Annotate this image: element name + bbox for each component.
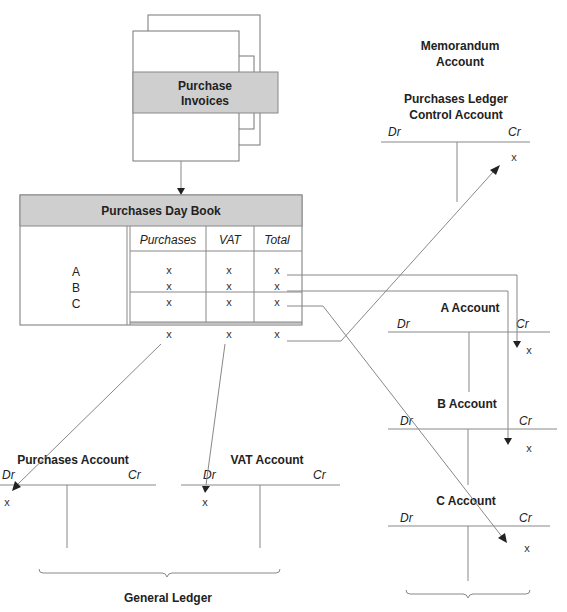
- purchases-flow-diagram: Purchase Invoices Purchases Day Book Pur…: [0, 0, 567, 612]
- purchases-account-cr: Cr: [128, 468, 142, 482]
- memorandum-heading-line1: Memorandum: [421, 39, 500, 53]
- arrow-head-icon: [513, 341, 521, 348]
- control-account: Purchases Ledger Control Account Dr Cr x: [381, 92, 530, 202]
- control-account-title-line2: Control Account: [409, 108, 503, 122]
- purchase-invoices-stack: Purchase Invoices: [133, 15, 278, 161]
- purchases-account: Purchases Account Dr Cr x: [0, 453, 156, 548]
- purchases-account-dr: Dr: [2, 468, 16, 482]
- vat-account-dr-entry: x: [202, 496, 208, 508]
- a-account-cr: Cr: [516, 317, 530, 331]
- control-account-title-line1: Purchases Ledger: [404, 92, 508, 106]
- invoice-title-line1: Purchase: [178, 79, 232, 93]
- row-name-a: A: [72, 265, 80, 279]
- cell-c-purchases: x: [166, 296, 172, 308]
- vat-account: VAT Account Dr Cr x: [181, 453, 340, 548]
- c-account: C Account Dr Cr x: [388, 494, 550, 581]
- general-ledger-label: General Ledger: [124, 591, 212, 605]
- cell-b-vat: x: [226, 280, 232, 292]
- arrow-head-icon: [504, 438, 512, 445]
- b-account-cr: Cr: [519, 414, 533, 428]
- cell-c-vat: x: [226, 296, 232, 308]
- purchases-ledger-brace: [406, 590, 530, 598]
- vat-account-cr: Cr: [313, 468, 327, 482]
- a-account-cr-entry: x: [526, 344, 532, 356]
- general-ledger-brace: [39, 569, 280, 577]
- column-header-total: Total: [264, 233, 290, 247]
- purchases-account-title: Purchases Account: [17, 453, 129, 467]
- arrow-head-icon: [202, 486, 210, 493]
- c-account-title: C Account: [436, 494, 496, 508]
- row-name-b: B: [72, 281, 80, 295]
- cell-a-purchases: x: [166, 264, 172, 276]
- a-account-title: A Account: [440, 301, 499, 315]
- total-total: x: [274, 328, 280, 340]
- c-account-dr: Dr: [400, 511, 414, 525]
- daybook-title: Purchases Day Book: [101, 204, 221, 218]
- total-vat: x: [226, 328, 232, 340]
- row-name-c: C: [72, 297, 81, 311]
- arrow-head-icon: [177, 188, 185, 195]
- cell-b-total: x: [274, 280, 280, 292]
- cell-c-total: x: [274, 296, 280, 308]
- cell-a-total: x: [274, 264, 280, 276]
- column-header-vat: VAT: [219, 233, 242, 247]
- invoice-title-line2: Invoices: [181, 94, 229, 108]
- column-header-purchases: Purchases: [140, 233, 197, 247]
- arrow-head-icon: [498, 533, 507, 543]
- vat-account-title: VAT Account: [230, 453, 303, 467]
- purchases-account-dr-entry: x: [4, 496, 10, 508]
- a-account-dr: Dr: [397, 317, 411, 331]
- b-account-title: B Account: [437, 397, 497, 411]
- b-account-cr-entry: x: [526, 442, 532, 454]
- c-account-cr: Cr: [519, 511, 533, 525]
- c-account-cr-entry: x: [524, 542, 530, 554]
- control-cr-entry: x: [511, 151, 517, 163]
- vat-account-dr: Dr: [203, 468, 217, 482]
- purchases-day-book: Purchases Day Book Purchases VAT Total A…: [20, 195, 302, 340]
- cell-a-vat: x: [226, 264, 232, 276]
- total-purchases: x: [166, 328, 172, 340]
- cell-b-purchases: x: [166, 280, 172, 292]
- b-account: B Account Dr Cr x: [388, 397, 557, 485]
- total-to-control-line: [287, 171, 494, 341]
- vat-total-to-vat-account-line: [206, 344, 225, 485]
- control-dr: Dr: [388, 125, 402, 139]
- a-account: A Account Dr Cr x: [388, 301, 550, 392]
- memorandum-heading-line2: Account: [436, 55, 484, 69]
- control-cr: Cr: [508, 125, 522, 139]
